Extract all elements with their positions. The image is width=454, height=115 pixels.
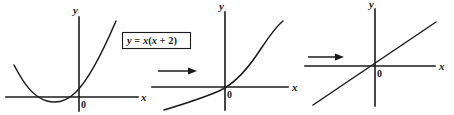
arrow-2-head-icon: [335, 54, 344, 61]
panel-2-y-axis-label: y: [217, 0, 224, 12]
panel-2-origin-label: 0: [227, 89, 232, 100]
panel-2-x-axis-label: x: [291, 81, 298, 93]
figure-canvas: x y 0 y = x(x + 2) x y 0: [0, 0, 454, 115]
panel-3-origin-label: 0: [377, 68, 382, 79]
panel-1-graph: x y 0: [6, 4, 147, 111]
panel-3-y-axis-label: y: [367, 0, 374, 10]
equation-label-text: y = x(x + 2): [125, 35, 177, 47]
equation-label: y = x(x + 2): [123, 33, 191, 49]
graph-sequence-figure: x y 0 y = x(x + 2) x y 0: [0, 0, 454, 115]
arrow-2: [308, 54, 344, 61]
arrow-1: [158, 68, 197, 75]
panel-2-graph: x y 0: [152, 0, 298, 110]
panel-1-parabola-curve: [14, 21, 116, 102]
panel-3-x-axis-label: x: [438, 60, 445, 72]
panel-1-y-axis-label: y: [71, 4, 78, 16]
panel-1-origin-label: 0: [81, 99, 86, 110]
panel-1-x-axis-label: x: [140, 91, 147, 103]
panel-3-graph: x y 0: [305, 0, 445, 106]
arrow-1-head-icon: [188, 68, 197, 75]
